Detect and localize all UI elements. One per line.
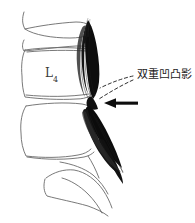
sacrum-outline-body (46, 170, 112, 208)
pointer-arrow (104, 98, 138, 108)
sacrum-outline-upper (60, 162, 108, 194)
annotation-label: 双重凹凸影 (137, 69, 192, 80)
upper-vertebra-endplate (25, 22, 89, 29)
spinous-process-line (88, 156, 99, 178)
sacrum-inner-line (62, 178, 102, 213)
pointer-arrow-head (104, 98, 116, 108)
leader-lines (99, 76, 133, 99)
spine-illustration (0, 0, 195, 223)
lower-vertebra-outline (21, 106, 91, 157)
leader-line-lower (99, 80, 133, 99)
pointer-arrow-shaft (113, 102, 138, 105)
lower-vertebra-upper-edge (26, 103, 92, 108)
vertebra-label-l4: L4 (45, 67, 58, 82)
l4-lower-endplate-line (26, 94, 89, 96)
vertebra-letter: L (45, 66, 53, 80)
vertebra-number: 4 (53, 75, 58, 84)
paravertebral-shadow-group (77, 18, 123, 184)
figure-container: 双重凹凸影 L4 (0, 0, 195, 223)
upper-vertebra-outline (23, 12, 88, 38)
vertebra-outlines (21, 12, 112, 216)
